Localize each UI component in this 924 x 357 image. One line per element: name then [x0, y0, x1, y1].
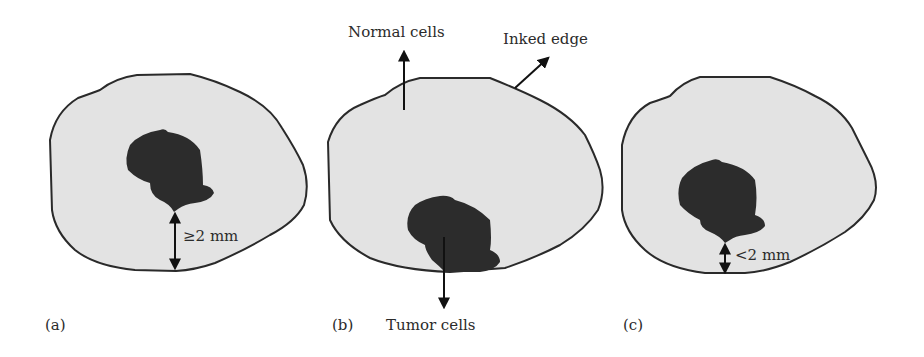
panel-b [328, 52, 603, 307]
inked-edge-arrow [515, 58, 548, 88]
tumor-cells-label: Tumor cells [386, 318, 475, 333]
diagram-canvas [0, 0, 924, 357]
panel-label-a: (a) [45, 318, 66, 333]
normal-cells-label: Normal cells [348, 25, 445, 40]
panel-label-b: (b) [332, 318, 353, 333]
margin-label-c: <2 mm [735, 248, 790, 263]
panel-a [50, 74, 307, 271]
inked-edge-label: Inked edge [503, 32, 588, 47]
surgical-margin-diagram: ≥2 mm (a) Normal cells Inked edge Tumor … [0, 0, 924, 357]
margin-label-a: ≥2 mm [183, 229, 238, 244]
panel-label-c: (c) [623, 318, 643, 333]
panel-c [622, 77, 876, 273]
